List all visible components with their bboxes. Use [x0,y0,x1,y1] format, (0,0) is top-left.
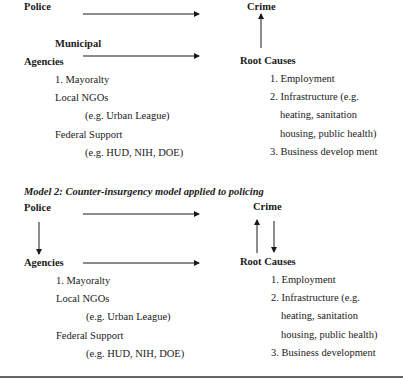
root-cause-item: 2. Infrastructure (e.g. [270,90,359,103]
node-police-2: Police [24,201,51,214]
node-police: Police [24,0,51,13]
agency-item-2: (e.g. HUD, NIH, DOE) [86,347,184,360]
root-cause-item-2: heating, sanitation [281,309,358,322]
root-cause-item-2: housing, public health) [281,328,378,341]
agency-item: Local NGOs [55,91,108,104]
node-root-causes-2: Root Causes [240,255,296,268]
agency-item-2: 1. Mayoralty [56,274,110,287]
root-cause-item: housing, public health) [280,127,377,140]
root-cause-item: 3. Business develop ment [270,145,377,158]
node-crime: Crime [247,0,276,13]
root-cause-item: heating, sanitation [280,108,357,121]
agency-item-2: (e.g. Urban League) [86,310,171,323]
agency-item: 1. Mayoralty [55,73,109,86]
node-agencies: Agencies [24,55,64,68]
bottom-rule-divider [0,376,403,378]
root-cause-item-2: 3. Business development [271,346,376,359]
agency-item: (e.g. Urban League) [85,109,170,122]
root-cause-item-2: 2. Infrastructure (e.g. [271,291,360,304]
model2-title: Model 2: Counter-insurgency model applie… [24,185,264,198]
agency-item-2: Local NGOs [56,292,109,305]
node-crime-2: Crime [253,200,282,213]
agency-item: Federal Support [55,128,122,141]
root-cause-item-2: 1. Employment [271,273,336,286]
node-agencies-2: Agencies [24,256,64,269]
node-root-causes: Root Causes [240,54,296,67]
agency-item: (e.g. HUD, NIH, DOE) [85,146,183,159]
root-cause-item: 1. Employment [270,72,335,85]
node-municipal-label: Municipal [55,37,101,50]
agency-item-2: Federal Support [56,329,123,342]
